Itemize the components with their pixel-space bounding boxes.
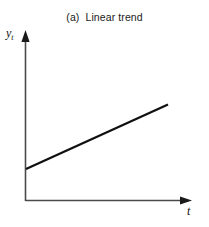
- plot-area: [0, 0, 209, 227]
- x-axis-label: t: [187, 204, 190, 219]
- y-axis-label-subscript: t: [11, 33, 13, 42]
- y-axis-arrowhead: [21, 30, 29, 42]
- figure-panel: (a) Linear trend yt t: [0, 0, 209, 227]
- trend-line-series: [26, 105, 168, 170]
- y-axis-label: yt: [6, 26, 14, 42]
